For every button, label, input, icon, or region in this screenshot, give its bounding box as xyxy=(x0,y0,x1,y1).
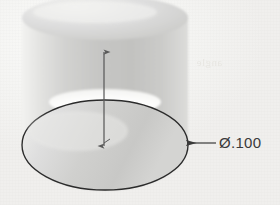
figure-canvas: Start Angle 0 Clockwise Clockwise angle xyxy=(0,0,280,205)
bottom-disc-sheen xyxy=(28,111,128,151)
top-cap-highlight xyxy=(33,1,157,23)
diameter-dimension-label: Ø .100 xyxy=(219,134,261,151)
cylinder-drawing xyxy=(0,0,280,205)
diameter-symbol-icon: Ø xyxy=(219,134,231,151)
diameter-value: .100 xyxy=(231,134,261,151)
